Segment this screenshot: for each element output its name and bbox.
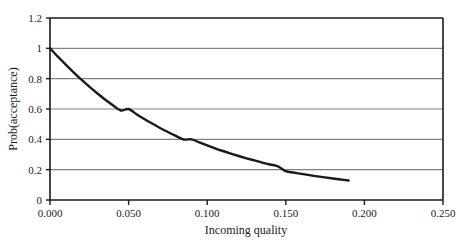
x-tick-label: 0.250: [431, 207, 456, 219]
y-axis-title: Prob(acceptance): [6, 67, 20, 150]
x-tick-label: 0.150: [273, 207, 298, 219]
operating-characteristic-chart: 00.20.40.60.811.2 0.0000.0500.1000.1500.…: [0, 0, 460, 247]
y-tick-label: 0.6: [28, 103, 42, 115]
y-tick-label: 0: [37, 194, 43, 206]
x-tick-label: 0.050: [116, 207, 141, 219]
x-tick-label: 0.100: [195, 207, 220, 219]
chart-container: 00.20.40.60.811.2 0.0000.0500.1000.1500.…: [0, 0, 460, 247]
chart-background: [0, 0, 460, 247]
x-tick-label: 0.000: [38, 207, 63, 219]
x-axis-title: Incoming quality: [205, 223, 287, 237]
y-tick-label: 0.2: [28, 164, 42, 176]
y-tick-label: 1: [37, 42, 43, 54]
y-tick-label: 0.8: [28, 73, 42, 85]
y-tick-label: 0.4: [28, 133, 42, 145]
x-tick-label: 0.200: [352, 207, 377, 219]
y-tick-label: 1.2: [28, 12, 42, 24]
